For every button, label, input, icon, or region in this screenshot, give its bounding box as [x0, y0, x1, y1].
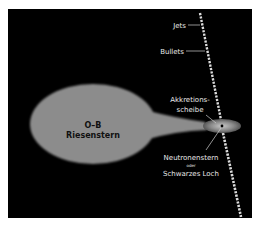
bullets-label: Bullets	[160, 48, 184, 56]
star-label-type: O–B	[85, 121, 102, 130]
disk-label-line1: Akkretions-	[170, 96, 210, 104]
star-label-name: Riesenstern	[66, 131, 120, 140]
compact-label-line1: Neutronenstern	[164, 154, 219, 162]
jets-label: Jets	[172, 22, 186, 30]
disk-label-line2: scheibe	[177, 106, 204, 114]
compact-label-or: oder	[186, 163, 195, 168]
compact-label-line2: Schwarzes Loch	[163, 170, 219, 178]
binary-diagram: O–B Riesenstern Jets Bullets Akkretions-…	[0, 0, 261, 227]
compact-object	[221, 125, 224, 128]
